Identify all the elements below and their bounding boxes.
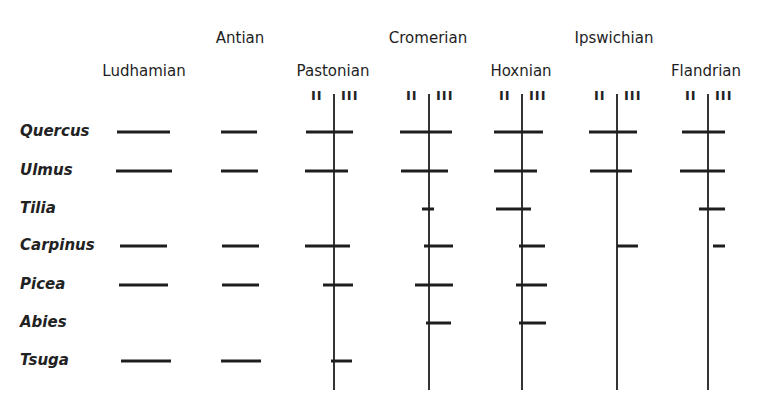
- interglacial-tree-presence-diagram: LudhamianAntianPastonianCromerianHoxnian…: [0, 0, 757, 406]
- presence-bars-plot: [0, 0, 757, 406]
